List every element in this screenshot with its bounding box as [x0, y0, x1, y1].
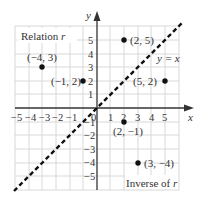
svg-text:4: 4: [88, 49, 94, 60]
point-neg1-2: [80, 78, 85, 83]
svg-text:−1: −1: [84, 117, 95, 128]
point-2-5: [121, 37, 126, 42]
point-label: (2, −1): [113, 125, 143, 138]
point-label: (−4, 3): [27, 51, 57, 64]
coordinate-plane: x y −5 −4 −3 −2 −1 1 2 3 4 5 0 5 4 3 2 1…: [0, 0, 207, 201]
svg-text:3: 3: [88, 62, 93, 73]
svg-text:1: 1: [88, 89, 93, 100]
svg-text:−3: −3: [84, 144, 95, 155]
point-5-2: [162, 78, 167, 83]
point-label: (3, −4): [144, 157, 174, 170]
point-label: (2, 5): [130, 34, 154, 47]
svg-text:3: 3: [135, 112, 140, 123]
x-axis-label: x: [187, 111, 193, 123]
svg-text:−2: −2: [84, 130, 95, 141]
svg-text:−5: −5: [84, 171, 95, 182]
svg-text:1: 1: [108, 112, 113, 123]
svg-text:5: 5: [88, 35, 93, 46]
svg-text:5: 5: [162, 112, 167, 123]
inverse-title: Inverse of r: [126, 177, 178, 189]
y-axis-arrow-icon: [94, 11, 101, 21]
svg-text:−3: −3: [39, 112, 50, 123]
point-label: (−1, 2): [51, 75, 81, 88]
point-2-neg1: [121, 119, 126, 124]
svg-text:−4: −4: [84, 157, 96, 168]
point-3-neg4: [135, 160, 140, 165]
svg-text:4: 4: [149, 112, 155, 123]
identity-line-label: y = x: [156, 52, 180, 64]
svg-text:2: 2: [88, 76, 93, 87]
point-neg4-3: [39, 64, 44, 69]
y-axis-label: y: [85, 9, 91, 21]
svg-text:−1: −1: [66, 112, 77, 123]
svg-text:−2: −2: [52, 112, 63, 123]
relation-title: Relation r: [21, 30, 66, 42]
point-label: (5, 2): [133, 75, 157, 88]
svg-text:−5: −5: [11, 112, 22, 123]
svg-text:−4: −4: [25, 112, 37, 123]
